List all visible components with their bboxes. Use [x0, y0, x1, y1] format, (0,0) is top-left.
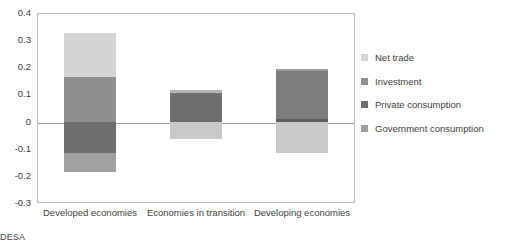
legend-label: Government consumption	[375, 123, 484, 135]
y-axis-tick: 0.4	[0, 8, 31, 18]
y-axis-tick: 0	[0, 117, 31, 127]
bar-group	[276, 0, 328, 242]
bar-segment	[170, 122, 222, 140]
legend-item[interactable]: Investment	[361, 76, 509, 88]
legend-item[interactable]: Government consumption	[361, 123, 509, 135]
y-axis-tick: 0.1	[0, 89, 31, 99]
bar-group	[64, 0, 116, 242]
chart-legend: Net tradeInvestmentPrivate consumptionGo…	[361, 52, 509, 146]
y-axis-tick: 0.3	[0, 35, 31, 45]
y-axis-tick: -0.1	[0, 144, 31, 154]
legend-item[interactable]: Private consumption	[361, 99, 509, 111]
bar-segment	[276, 122, 328, 153]
chart-container: 0.40.30.20.10-0.1-0.2-0.3 Net tradeInves…	[0, 0, 511, 242]
source-note: DESA	[0, 232, 25, 242]
x-axis-tick: Economies in transition	[143, 207, 249, 218]
legend-label: Investment	[375, 76, 421, 88]
bar-segment	[276, 71, 328, 119]
x-axis-tick: Developed economies	[37, 207, 143, 218]
legend-swatch-icon	[361, 78, 368, 85]
bar-segment	[64, 153, 116, 172]
legend-item[interactable]: Net trade	[361, 52, 509, 64]
legend-swatch-icon	[361, 125, 368, 132]
bar-segment	[64, 33, 116, 76]
legend-label: Private consumption	[375, 99, 461, 111]
legend-swatch-icon	[361, 54, 368, 61]
bar-group	[170, 0, 222, 242]
bar-segment	[64, 77, 116, 122]
bar-segment	[170, 93, 222, 122]
legend-label: Net trade	[375, 52, 414, 64]
legend-swatch-icon	[361, 101, 368, 108]
bar-segment	[64, 122, 116, 153]
y-axis-tick: -0.2	[0, 171, 31, 181]
y-axis-tick: 0.2	[0, 62, 31, 72]
y-axis-tick: -0.3	[0, 198, 31, 208]
x-axis-tick: Developing economies	[249, 207, 355, 218]
